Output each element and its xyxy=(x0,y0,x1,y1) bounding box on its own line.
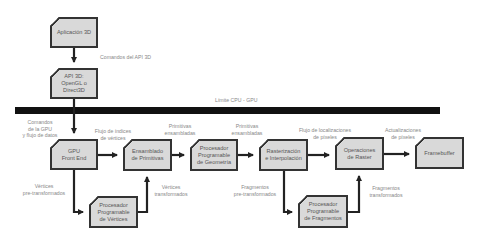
node-label: Procesador Programable de Vértices xyxy=(94,202,132,223)
node-label: Rasterización e Interpolación xyxy=(262,148,305,162)
label-gpu-commands: Comandos de la GPU y flujo de datos xyxy=(14,119,66,139)
label-transformed-vertices: Vértices transformados xyxy=(150,184,192,197)
label-transformed-fragments: Fragmentos transformados xyxy=(364,185,408,198)
label-vertex-index-flow: Flujo de índices de vértices xyxy=(90,128,136,141)
node-api-3d: API 3D: OpenGL o Direct3D xyxy=(50,68,98,99)
node-aplicacion-3d: Aplicación 3D xyxy=(50,17,98,48)
label-pretransformed-vertices: Vértices pre-transformados xyxy=(18,183,70,196)
label-pretransformed-fragments: Fragmentos pre-transformados xyxy=(228,184,282,197)
node-procesador-geometria: Procesador Programable de Geometría xyxy=(190,139,238,171)
node-operaciones-raster: Operaciones de Raster xyxy=(335,137,384,170)
node-rasterizacion: Rasterización e Interpolación xyxy=(259,139,308,171)
node-label: Operaciones de Raster xyxy=(341,147,379,161)
node-framebuffer: Framebuffer xyxy=(415,137,464,169)
node-label: Procesador Programable de Geometría xyxy=(194,145,234,166)
cpu-gpu-boundary-bar xyxy=(15,107,440,114)
node-label: Aplicación 3D xyxy=(54,29,94,36)
node-procesador-fragmentos: Procesador Programable de Fragmentos xyxy=(298,195,348,228)
node-label: GPU Front End xyxy=(59,148,90,162)
label-pixel-location-flow: Flujo de localizaciones de píxeles xyxy=(292,127,358,140)
node-label: Ensamblado de Primitivas xyxy=(128,148,166,162)
node-label: Framebuffer xyxy=(421,150,457,157)
node-label: Procesador Programable de Fragmentos xyxy=(301,201,345,222)
node-ensamblado-primitivas: Ensamblado de Primitivas xyxy=(123,139,172,171)
label-api-commands: Comandos del API 3D xyxy=(100,54,151,61)
node-label: API 3D: OpenGL o Direct3D xyxy=(58,73,90,94)
label-pixel-updates: Actualizaciones de píxeles xyxy=(378,127,428,140)
label-cpu-gpu-line: Límite CPU - GPU xyxy=(215,97,257,104)
node-gpu-front-end: GPU Front End xyxy=(50,139,98,170)
label-assembled-primitives-2: Primitivas ensambladas xyxy=(227,123,267,136)
label-assembled-primitives-1: Primitivas ensambladas xyxy=(160,123,200,136)
node-procesador-vertices: Procesador Programable de Vértices xyxy=(89,196,138,228)
